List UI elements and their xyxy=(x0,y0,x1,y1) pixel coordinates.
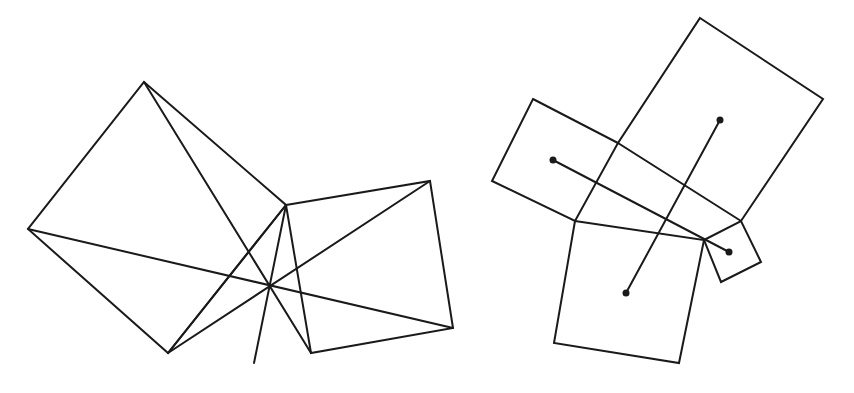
diagonal-left-to-far-right xyxy=(28,229,453,328)
line-bottom-to-vertex xyxy=(168,205,286,353)
center-bottom-square xyxy=(623,290,630,297)
center-right-square xyxy=(726,249,733,256)
center-top-square xyxy=(717,117,724,124)
segment-left-to-right-centers xyxy=(553,160,729,252)
large-square xyxy=(28,82,286,353)
line-bottom-to-top-right xyxy=(168,181,430,353)
euclid-proof-figure xyxy=(28,82,453,363)
center-left-square xyxy=(550,157,557,164)
small-square xyxy=(286,181,453,353)
four-squares-figure xyxy=(492,18,823,363)
diagonal-top-to-right-bottom xyxy=(144,82,311,353)
line-vertex-through-center xyxy=(254,205,286,363)
diagram-canvas xyxy=(0,0,854,393)
right-small-square xyxy=(704,221,761,282)
